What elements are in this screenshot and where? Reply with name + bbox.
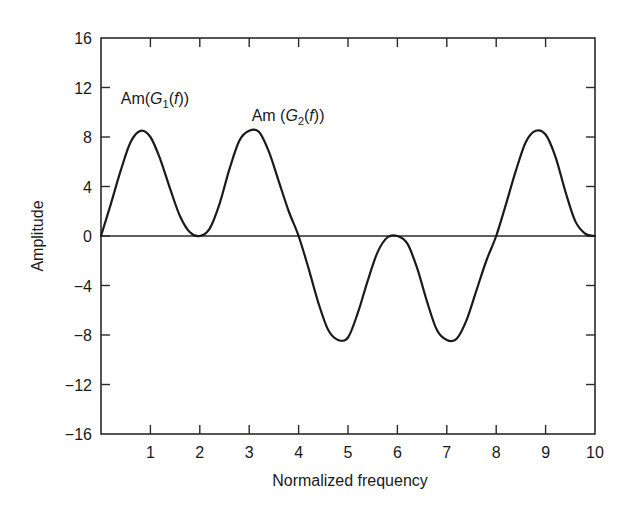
x-tick-label: 5 — [344, 444, 353, 461]
y-tick-label: −12 — [65, 377, 92, 394]
x-tick-label: 2 — [195, 444, 204, 461]
y-tick-label: 0 — [83, 228, 92, 245]
chart-canvas: 123456789101612840−4−8−12−16 Am(G1(f))Am… — [0, 0, 629, 513]
x-tick-label: 7 — [442, 444, 451, 461]
x-tick-label: 8 — [492, 444, 501, 461]
x-tick-label: 1 — [146, 444, 155, 461]
y-tick-label: −8 — [74, 327, 92, 344]
y-tick-label: 16 — [74, 30, 92, 47]
x-tick-label: 4 — [294, 444, 303, 461]
y-tick-label: 12 — [74, 80, 92, 97]
curve-label-2: Am (G2(f)) — [252, 107, 325, 127]
y-axis-title: Amplitude — [29, 200, 46, 271]
x-tick-label: 3 — [245, 444, 254, 461]
curve-annotations: Am(G1(f))Am (G2(f)) — [121, 90, 325, 127]
x-tick-label: 10 — [586, 444, 604, 461]
y-tick-label: −16 — [65, 426, 92, 443]
curve-label-1: Am(G1(f)) — [121, 90, 189, 110]
x-tick-label: 6 — [393, 444, 402, 461]
x-tick-label: 9 — [541, 444, 550, 461]
y-tick-label: −4 — [74, 278, 92, 295]
x-axis-title: Normalized frequency — [272, 472, 428, 489]
y-tick-label: 4 — [83, 179, 92, 196]
y-tick-label: 8 — [83, 129, 92, 146]
